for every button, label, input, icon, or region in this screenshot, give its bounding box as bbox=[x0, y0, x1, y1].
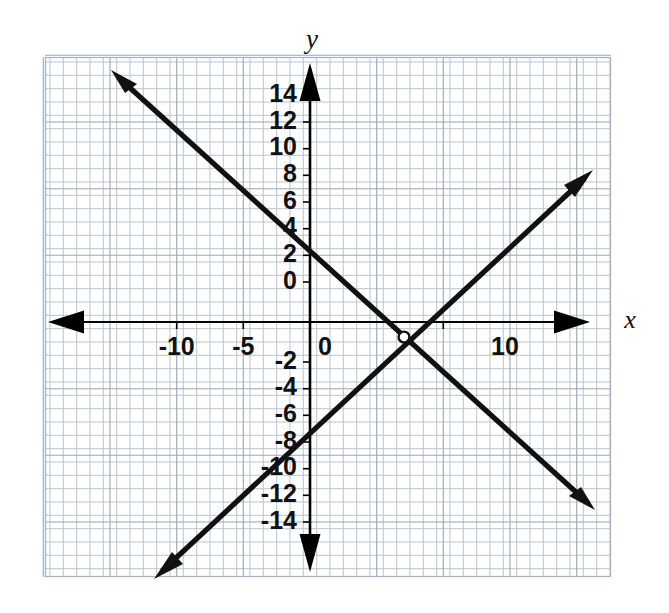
y-tick-label: 14 bbox=[269, 79, 297, 107]
y-tick-label: -8 bbox=[275, 426, 297, 454]
y-tick-label: 8 bbox=[283, 159, 297, 187]
y-tick-label: 0 bbox=[283, 266, 297, 294]
y-tick-label: 4 bbox=[283, 212, 297, 240]
intersection-point-marker bbox=[399, 332, 410, 343]
y-tick-label: 6 bbox=[283, 186, 297, 214]
y-tick-label: -2 bbox=[275, 346, 297, 374]
y-tick-label: -6 bbox=[275, 399, 297, 427]
y-tick-label: 2 bbox=[283, 239, 297, 267]
x-axis-label: x bbox=[623, 305, 636, 334]
y-axis-label: y bbox=[303, 24, 318, 54]
y-tick-label: -4 bbox=[275, 372, 297, 400]
graph-figure: y x 14 12 10 8 6 4 2 0 -2 -4 -6 -8 -10 -… bbox=[0, 0, 669, 613]
y-tick-label: -12 bbox=[261, 479, 297, 507]
x-tick-label: -5 bbox=[232, 332, 254, 360]
x-origin-tick-label: 0 bbox=[318, 332, 332, 360]
coordinate-plane-svg: y x 14 12 10 8 6 4 2 0 -2 -4 -6 -8 -10 -… bbox=[0, 0, 669, 613]
y-tick-label: -10 bbox=[261, 452, 297, 480]
y-tick-label: 10 bbox=[269, 132, 297, 160]
y-tick-label: -14 bbox=[261, 506, 297, 534]
y-tick-label: 12 bbox=[269, 106, 297, 134]
x-tick-label: -10 bbox=[159, 332, 195, 360]
x-tick-label: 10 bbox=[491, 332, 519, 360]
